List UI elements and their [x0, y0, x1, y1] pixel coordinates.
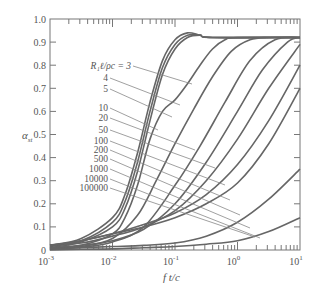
series-label: 10 — [99, 103, 109, 113]
x-tick-label: 101 — [289, 254, 303, 267]
series-label: 500 — [94, 154, 109, 164]
y-tick-label: 0.3 — [34, 175, 47, 186]
y-axis-label: αst — [22, 129, 34, 144]
y-tick-label: 0.6 — [34, 106, 47, 117]
series-label: 4 — [103, 73, 108, 83]
y-tick-label: 0.2 — [34, 198, 47, 209]
ticks — [50, 19, 300, 250]
leader-line — [110, 141, 225, 185]
series-label: R₁ℓ/ρc = 3 — [90, 61, 132, 71]
series-labels: R₁ℓ/ρc = 3451020501002005001000100001000… — [80, 61, 132, 193]
leader-line — [110, 78, 180, 105]
y-tick-label: 0.4 — [34, 152, 47, 163]
curve-R-5 — [50, 35, 300, 248]
curve-R-1000 — [50, 88, 300, 245]
x-tick-labels: 10-310-210-1100101 — [38, 254, 303, 267]
series-label: 100000 — [80, 183, 109, 193]
leader-line — [110, 89, 172, 117]
x-tick-label: 100 — [227, 254, 241, 267]
series-label: 50 — [99, 125, 109, 135]
leader-lines — [110, 66, 260, 238]
y-tick-label: 1.0 — [34, 14, 47, 25]
y-tick-labels: 00.10.20.30.40.50.60.70.80.91.0 — [34, 14, 47, 256]
y-tick-label: 0.1 — [34, 221, 47, 232]
x-tick-label: 10-3 — [38, 254, 54, 267]
curve-R-4 — [50, 34, 300, 246]
y-tick-label: 0.7 — [34, 83, 47, 94]
y-tick-label: 0.5 — [34, 129, 47, 140]
leader-line — [110, 130, 215, 168]
series-label: 5 — [103, 84, 108, 94]
chart: 00.10.20.30.40.50.60.70.80.91.0 10-310-2… — [0, 0, 321, 297]
y-tick-label: 0.8 — [34, 60, 47, 71]
y-tick-label: 0 — [41, 245, 46, 256]
series-label: 1000 — [89, 164, 108, 174]
x-tick-label: 10-2 — [101, 254, 117, 267]
x-tick-label: 10-1 — [163, 254, 179, 267]
axes — [50, 19, 300, 250]
y-tick-label: 0.9 — [34, 37, 47, 48]
curves — [50, 33, 300, 250]
x-axis-label: f t/c — [163, 271, 180, 283]
plot-frame — [50, 19, 300, 250]
series-label: 20 — [99, 113, 109, 123]
